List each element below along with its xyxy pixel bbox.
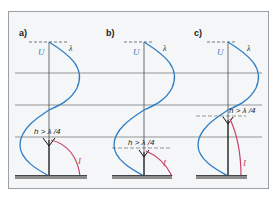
panel-a-label: a) <box>19 28 27 38</box>
voltage-label: U <box>38 47 45 57</box>
wavelength-label: λ <box>68 44 73 53</box>
panel-b-label: b) <box>106 28 115 38</box>
height-label: h > λ /4 <box>34 127 61 136</box>
voltage-label: U <box>217 47 224 57</box>
height-label: h > λ /4 <box>128 138 155 147</box>
panel-c-label: c) <box>194 28 202 38</box>
antenna-diagram: a) U λ h > λ /4 I b) U λ h > λ /4 I c) U <box>0 0 276 198</box>
voltage-label: U <box>133 47 140 57</box>
figure-frame <box>9 12 269 189</box>
height-label: h > λ /4 <box>229 106 256 115</box>
wavelength-label: λ <box>162 44 167 53</box>
wavelength-label: λ <box>246 44 251 53</box>
